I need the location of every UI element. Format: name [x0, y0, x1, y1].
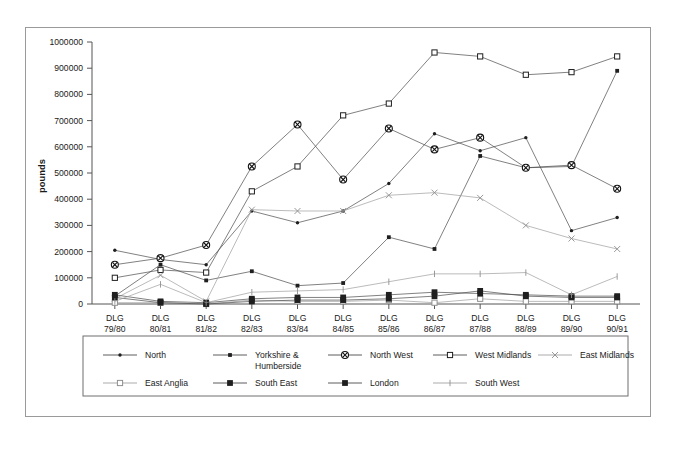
data-point-marker: [478, 149, 481, 152]
x-tick-label: 89/90: [561, 324, 583, 334]
x-tick-label: 88/89: [515, 324, 537, 334]
data-point-marker: [385, 125, 392, 132]
data-point-marker: [432, 300, 437, 305]
data-point-marker: [478, 54, 483, 59]
x-tick-label: DLG: [426, 313, 444, 323]
data-point-marker: [570, 229, 573, 232]
legend-marker-icon: [227, 380, 233, 386]
data-point-marker: [204, 263, 207, 266]
data-point-marker: [615, 54, 620, 59]
y-axis-ticks: 0100000200000300000400000500000600000700…: [50, 37, 92, 309]
x-tick-label: DLG: [608, 313, 626, 323]
y-tick-label: 800000: [54, 89, 83, 99]
data-point-marker: [112, 275, 117, 280]
axis-lines: [92, 42, 640, 304]
series-line: [115, 273, 617, 303]
x-tick-label: DLG: [563, 313, 581, 323]
data-point-marker: [614, 185, 621, 192]
x-tick-label: DLG: [517, 313, 535, 323]
x-tick-label: DLG: [152, 313, 170, 323]
x-tick-label: DLG: [334, 313, 352, 323]
y-tick-label: 0: [78, 299, 83, 309]
data-point-marker: [294, 121, 301, 128]
data-point-marker: [432, 50, 437, 55]
legend-item-label: West Midlands: [475, 350, 531, 360]
data-point-marker: [431, 146, 438, 153]
y-tick-label: 200000: [54, 247, 83, 257]
x-tick-label: 84/85: [332, 324, 354, 334]
y-axis-title: pounds: [36, 159, 47, 193]
data-point-marker: [340, 176, 347, 183]
x-tick-label: DLG: [289, 313, 307, 323]
data-point-marker: [477, 288, 483, 294]
series-north-west: [111, 121, 620, 268]
legend-marker-icon: [342, 352, 349, 359]
series-east-anglia: [112, 296, 620, 306]
figure-frame: pounds 010000020000030000040000050000060…: [25, 27, 651, 417]
series-line: [115, 52, 617, 277]
legend-item-label: East Midlands: [580, 350, 634, 360]
legend-marker-icon: [447, 352, 452, 357]
y-tick-label: 300000: [54, 220, 83, 230]
x-tick-label: 81/82: [195, 324, 217, 334]
legend-item-label: North: [145, 350, 166, 360]
legend-item-label: North West: [370, 350, 413, 360]
data-point-marker: [523, 222, 529, 228]
data-point-marker: [296, 284, 300, 288]
y-tick-label: 100000: [54, 273, 83, 283]
data-point-marker: [569, 236, 575, 242]
data-point-marker: [386, 101, 391, 106]
x-tick-label: 90/91: [606, 324, 628, 334]
data-point-marker: [111, 261, 118, 268]
x-tick-label: DLG: [471, 313, 489, 323]
chart-area: pounds 010000020000030000040000050000060…: [26, 28, 652, 418]
x-tick-label: 83/84: [287, 324, 309, 334]
legend-item-label: East Anglia: [145, 378, 188, 388]
data-point-marker: [477, 134, 484, 141]
series-line: [115, 71, 617, 296]
x-tick-label: DLG: [243, 313, 261, 323]
y-tick-label: 700000: [54, 116, 83, 126]
data-point-marker: [157, 255, 164, 262]
data-point-marker: [249, 189, 254, 194]
legend-marker-icon: [117, 380, 122, 385]
legend-marker-icon: [118, 353, 121, 356]
x-tick-label: 85/86: [378, 324, 400, 334]
x-tick-label: 80/81: [150, 324, 172, 334]
data-point-marker: [159, 263, 163, 267]
data-point-marker: [340, 297, 346, 303]
data-point-marker: [433, 132, 436, 135]
data-point-marker: [387, 182, 390, 185]
data-point-marker: [478, 154, 482, 158]
x-tick-label: 87/88: [469, 324, 491, 334]
screenshot-canvas: pounds 010000020000030000040000050000060…: [0, 0, 679, 450]
data-point-marker: [386, 296, 392, 302]
data-point-marker: [432, 293, 438, 299]
data-point-marker: [569, 70, 574, 75]
y-tick-label: 400000: [54, 194, 83, 204]
series-layer: [111, 50, 620, 307]
data-point-marker: [615, 216, 618, 219]
data-point-marker: [524, 136, 527, 139]
x-tick-label: 82/83: [241, 324, 263, 334]
series-east-midlands: [112, 190, 620, 305]
data-point-marker: [522, 164, 529, 171]
y-tick-label: 500000: [54, 168, 83, 178]
data-point-marker: [523, 299, 528, 304]
data-point-marker: [295, 164, 300, 169]
series-north: [113, 132, 619, 266]
plot-axes: [92, 42, 640, 304]
line-chart: pounds 010000020000030000040000050000060…: [26, 28, 652, 418]
y-tick-label: 600000: [54, 142, 83, 152]
series-line: [115, 125, 617, 265]
data-point-marker: [158, 267, 163, 272]
series-line: [115, 134, 617, 265]
data-point-marker: [614, 246, 620, 252]
data-point-marker: [204, 279, 208, 283]
y-tick-label: 1000000: [50, 37, 84, 47]
legend-marker-icon: [342, 380, 348, 386]
data-point-marker: [523, 72, 528, 77]
series-west-midlands: [112, 50, 620, 281]
legend-marker-icon: [228, 353, 232, 357]
chart-legend: NorthYorkshire &HumbersideNorth WestWest…: [83, 336, 634, 396]
